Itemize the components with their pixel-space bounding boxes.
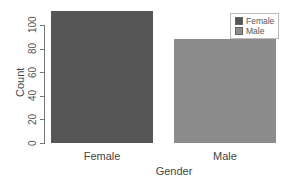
y-axis-label: Count <box>14 68 26 97</box>
y-tick-label: 40 <box>27 90 38 101</box>
y-tick <box>40 49 45 50</box>
x-category-label: Female <box>52 150 152 162</box>
legend-swatch-icon <box>235 27 243 35</box>
y-tick <box>40 96 45 97</box>
y-tick-label: 80 <box>27 43 38 54</box>
legend-label: Female <box>246 16 274 26</box>
legend-entry: Male <box>235 26 274 36</box>
x-category-label: Male <box>175 150 275 162</box>
bar-male <box>174 39 276 143</box>
y-tick <box>40 119 45 120</box>
y-axis-line <box>44 25 45 144</box>
x-axis-label: Gender <box>134 165 214 177</box>
bar-female <box>51 11 153 143</box>
y-tick <box>40 72 45 73</box>
y-tick <box>40 143 45 144</box>
legend-label: Male <box>246 26 264 36</box>
y-tick-label: 100 <box>27 17 38 34</box>
y-tick-label: 60 <box>27 67 38 78</box>
y-tick-label: 20 <box>27 114 38 125</box>
legend-entry: Female <box>235 16 274 26</box>
y-tick <box>40 25 45 26</box>
legend: FemaleMale <box>230 13 279 39</box>
legend-swatch-icon <box>235 17 243 25</box>
y-tick-label: 0 <box>27 140 38 146</box>
